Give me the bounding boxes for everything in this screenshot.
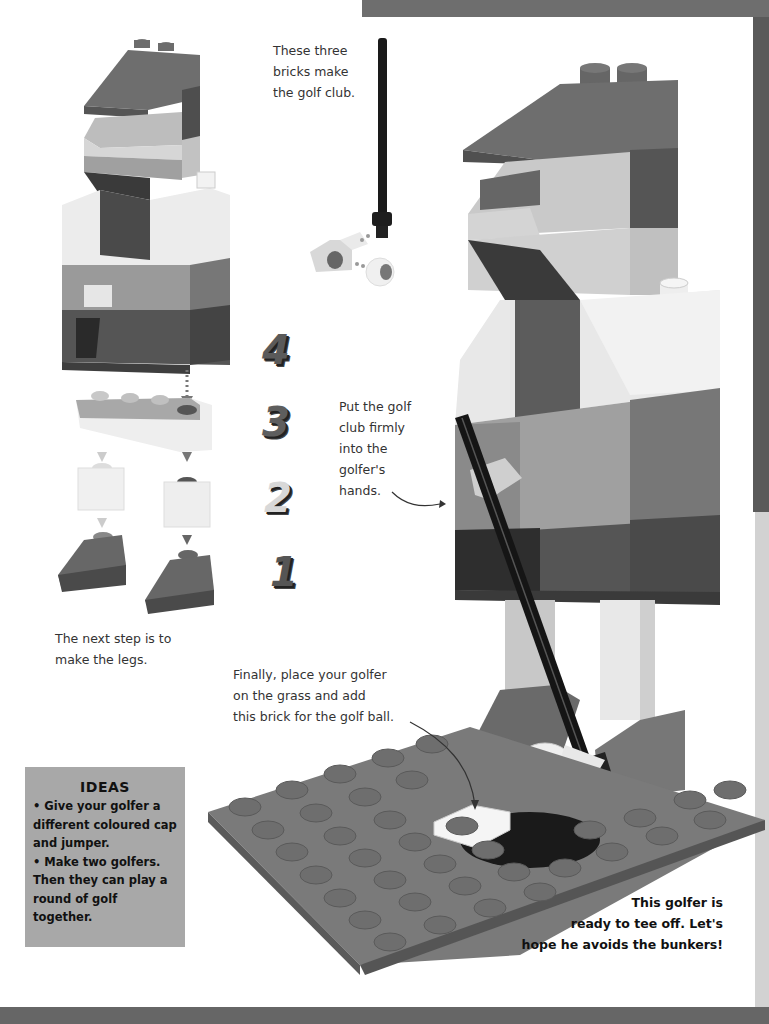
ideas-item-2: • Make two golfers. Then they can play a… [33, 853, 177, 927]
step-3-label: 3 [262, 399, 290, 445]
ideas-title: IDEAS [33, 779, 177, 795]
caption-club-bricks: These three bricks make the golf club. [273, 40, 355, 103]
exploded-upper-body [62, 39, 230, 374]
caption-put-club: Put the golf club firmly into the golfer… [339, 396, 411, 501]
caption-next-step-legs: The next step is to make the legs. [55, 628, 171, 670]
step-number-3: 3 [262, 402, 290, 442]
step-1-label: 1 [270, 549, 298, 595]
ideas-box: IDEAS • Give your golfer a different col… [25, 767, 185, 947]
ideas-item-1: • Give your golfer a different coloured … [33, 797, 177, 853]
caption-ready-tee-off: This golfer is ready to tee off. Let's h… [522, 892, 723, 955]
step-number-1: 1 [270, 552, 298, 592]
step-number-2: 2 [264, 478, 292, 518]
step-4-label: 4 [262, 327, 290, 373]
assembled-golfer [455, 63, 720, 800]
step-number-4: 4 [262, 330, 290, 370]
caption-finally-place: Finally, place your golfer on the grass … [233, 664, 394, 727]
exploded-legs [58, 391, 214, 614]
step-2-label: 2 [264, 475, 292, 521]
